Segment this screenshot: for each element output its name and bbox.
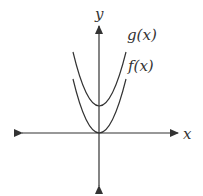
g-label: g(x) [127,26,157,44]
f-label: f(x) [127,57,154,75]
x-axis-label: x [183,125,192,143]
y-axis-label: y [94,5,104,23]
graph: y x g(x) f(x) [0,0,203,196]
